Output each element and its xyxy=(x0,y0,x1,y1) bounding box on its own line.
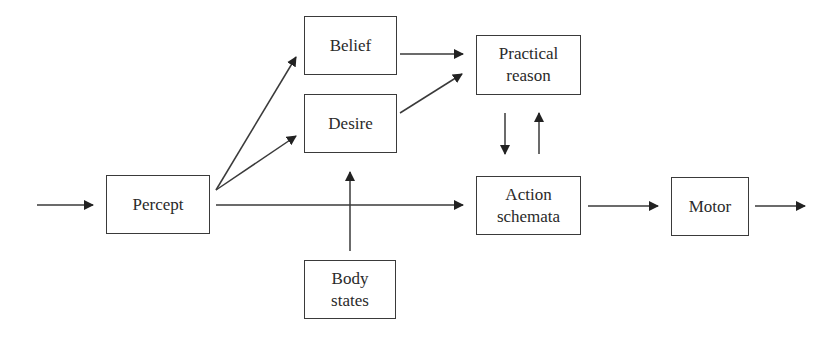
node-action-schemata: Action schemata xyxy=(476,176,581,235)
node-belief: Belief xyxy=(304,16,397,75)
node-practical-reason: Practical reason xyxy=(476,35,581,95)
node-percept-label: Percept xyxy=(133,194,184,216)
arrow-desire-to-practical xyxy=(400,74,462,113)
edges-layer xyxy=(0,0,837,342)
node-action-schemata-line2: schemata xyxy=(497,206,560,228)
cognitive-architecture-diagram: Percept Belief Desire Practical reason A… xyxy=(0,0,837,342)
node-desire: Desire xyxy=(304,94,397,153)
node-action-schemata-line1: Action xyxy=(505,184,551,206)
node-motor-label: Motor xyxy=(689,196,732,218)
node-belief-label: Belief xyxy=(330,35,372,57)
node-practical-reason-line2: reason xyxy=(506,65,550,87)
node-percept: Percept xyxy=(106,175,210,234)
node-body-states: Body states xyxy=(304,260,396,319)
node-practical-reason-line1: Practical xyxy=(499,43,558,65)
node-desire-label: Desire xyxy=(328,113,372,135)
arrow-percept-to-belief xyxy=(216,57,296,190)
node-body-states-line2: states xyxy=(331,290,369,312)
node-body-states-line1: Body xyxy=(332,268,369,290)
arrow-percept-to-desire xyxy=(216,136,296,190)
node-motor: Motor xyxy=(671,177,749,236)
